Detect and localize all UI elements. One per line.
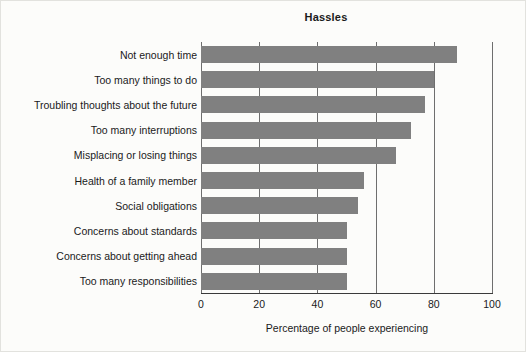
bar-row bbox=[201, 269, 492, 294]
bar[interactable] bbox=[201, 273, 347, 290]
x-axis-title: Percentage of people experiencing bbox=[201, 322, 493, 334]
plot-area bbox=[201, 42, 492, 294]
x-tick-label: 100 bbox=[483, 298, 501, 310]
x-tick-label: 20 bbox=[253, 298, 265, 310]
x-tick-label: 80 bbox=[428, 298, 440, 310]
x-tick-label: 40 bbox=[312, 298, 324, 310]
bar[interactable] bbox=[201, 71, 434, 88]
category-label: Too many things to do bbox=[5, 74, 197, 86]
category-label: Troubling thoughts about the future bbox=[5, 99, 197, 111]
category-label: Health of a family member bbox=[5, 175, 197, 187]
category-label: Concerns about standards bbox=[5, 225, 197, 237]
bar[interactable] bbox=[201, 197, 358, 214]
x-tick-label: 60 bbox=[370, 298, 382, 310]
x-tick-label: 0 bbox=[198, 298, 204, 310]
bar-row bbox=[201, 67, 492, 92]
category-axis-labels: Not enough timeToo many things to doTrou… bbox=[1, 42, 197, 294]
category-label: Social obligations bbox=[5, 200, 197, 212]
bar-row bbox=[201, 218, 492, 243]
bar-row bbox=[201, 92, 492, 117]
chart-title-text: Hassles bbox=[305, 11, 348, 23]
category-label: Too many interruptions bbox=[5, 124, 197, 136]
chart-title: Hassles bbox=[1, 11, 526, 23]
bar[interactable] bbox=[201, 147, 396, 164]
category-label: Misplacing or losing things bbox=[5, 149, 197, 161]
category-label: Too many responsibilities bbox=[5, 275, 197, 287]
category-label: Not enough time bbox=[5, 49, 197, 61]
bar-row bbox=[201, 168, 492, 193]
bar[interactable] bbox=[201, 46, 457, 63]
bar-row bbox=[201, 244, 492, 269]
bar-row bbox=[201, 193, 492, 218]
bar-row bbox=[201, 118, 492, 143]
bar[interactable] bbox=[201, 122, 411, 139]
gridline-100 bbox=[492, 42, 493, 294]
bar-row bbox=[201, 42, 492, 67]
bar[interactable] bbox=[201, 172, 364, 189]
bar[interactable] bbox=[201, 222, 347, 239]
category-label: Concerns about getting ahead bbox=[5, 250, 197, 262]
chart-figure: Hassles Not enough timeToo many things t… bbox=[0, 0, 526, 352]
x-axis-line bbox=[201, 293, 493, 294]
bar[interactable] bbox=[201, 248, 347, 265]
bar[interactable] bbox=[201, 96, 425, 113]
bar-row bbox=[201, 143, 492, 168]
